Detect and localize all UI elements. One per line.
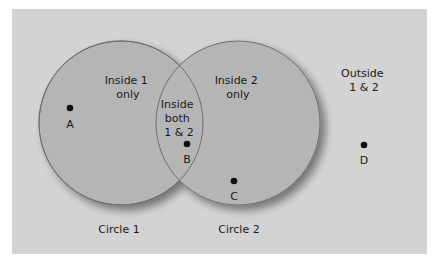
label-inside-both: Inside both 1 & 2	[161, 98, 197, 139]
point-c-label: C	[230, 190, 238, 203]
label-outside: Outside 1 & 2	[341, 67, 387, 94]
circle-2-caption: Circle 2	[218, 223, 259, 236]
point-d-label: D	[360, 154, 368, 167]
point-b-label: B	[183, 153, 191, 166]
point-a-marker	[67, 105, 74, 112]
point-a-label: A	[66, 118, 74, 131]
point-b-marker	[184, 141, 191, 148]
venn-diagram: Inside 1 only Inside 2 only Inside both …	[0, 0, 439, 265]
point-c-marker	[231, 178, 238, 185]
circle-1-caption: Circle 1	[98, 223, 139, 236]
point-d-marker	[361, 142, 368, 149]
